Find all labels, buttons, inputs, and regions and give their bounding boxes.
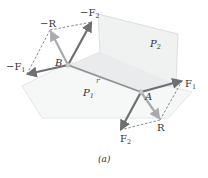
point-a-marker [139, 90, 143, 94]
label-point-b: B [54, 57, 62, 68]
label-f1: F1 [185, 78, 196, 91]
point-b-marker [66, 63, 70, 67]
label-point-a: A [144, 91, 152, 102]
force-couple-diagram: −R −F2 −F1 B P2 P1 r A F1 F2 R (a) [0, 0, 208, 178]
label-neg-f2: −F2 [80, 7, 99, 20]
figure-caption: (a) [98, 154, 111, 164]
label-f2: F2 [120, 133, 131, 146]
label-neg-r: −R [40, 18, 56, 29]
label-r: R [157, 122, 165, 133]
label-neg-f1: −F1 [6, 61, 25, 74]
